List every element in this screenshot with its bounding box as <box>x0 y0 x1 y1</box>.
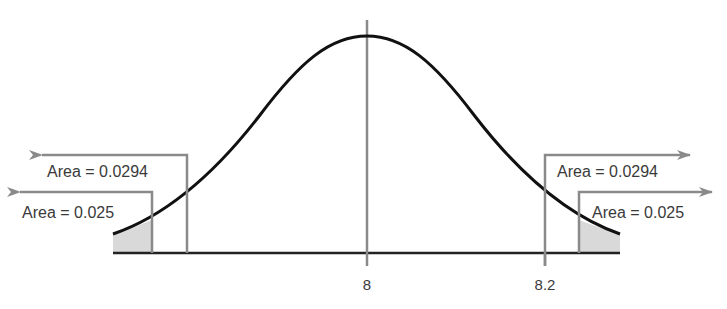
tick-label-8.2: 8.2 <box>535 276 556 293</box>
normal-distribution-diagram: Area = 0.0294 Area = 0.025 Area = 0.0294… <box>0 0 727 309</box>
left-inner-area-label: Area = 0.025 <box>22 204 114 221</box>
left-outer-area-label: Area = 0.0294 <box>47 163 148 180</box>
tick-label-mean: 8 <box>363 276 371 293</box>
right-outer-area-label: Area = 0.0294 <box>557 163 658 180</box>
right-inner-area-label: Area = 0.025 <box>592 204 684 221</box>
